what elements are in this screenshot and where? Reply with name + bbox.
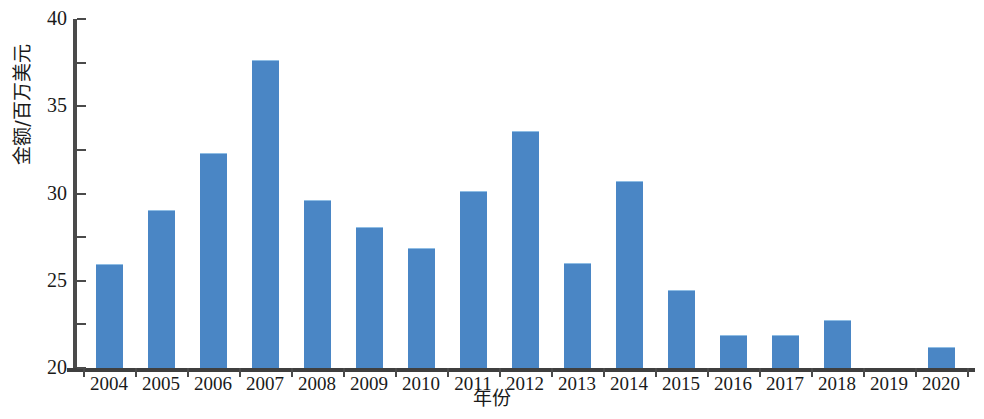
y-axis-tick-label: 25 xyxy=(47,269,67,289)
bar xyxy=(564,263,591,368)
x-axis-tick xyxy=(499,368,501,377)
bar xyxy=(304,200,331,368)
bar xyxy=(252,60,279,368)
x-axis-tick xyxy=(655,368,657,377)
y-axis-tick: 30 xyxy=(77,105,86,107)
y-axis-tick: 20 xyxy=(77,193,86,195)
x-axis-line xyxy=(67,368,975,372)
bar xyxy=(96,264,123,368)
bar xyxy=(356,227,383,368)
x-axis-tick xyxy=(863,368,865,377)
y-axis-tick-label: 30 xyxy=(47,182,67,202)
bar xyxy=(772,335,799,368)
x-axis-tick xyxy=(915,368,917,377)
y-axis-tick-label: 35 xyxy=(47,95,67,115)
bar xyxy=(408,248,435,368)
bar xyxy=(824,320,851,368)
x-axis-tick xyxy=(395,368,397,377)
x-axis-tick xyxy=(83,368,85,377)
y-axis-tick: 10 xyxy=(77,280,86,282)
y-axis-title: 金额/百万美元 xyxy=(13,5,32,205)
x-axis-tick xyxy=(343,368,345,377)
bar-chart: 金额/百万美元 0510152025303540 200420052006200… xyxy=(0,0,984,419)
y-axis-tick: 25 xyxy=(77,149,86,151)
y-axis-tick: 40 xyxy=(77,18,86,20)
x-axis-tick xyxy=(551,368,553,377)
bar xyxy=(616,181,643,368)
plot-area: 0510152025303540 20042005200620072008200… xyxy=(73,19,975,368)
y-axis-tick-label: 20 xyxy=(47,357,67,377)
x-axis-tick xyxy=(967,368,969,377)
bar xyxy=(148,210,175,368)
y-axis-tick: 15 xyxy=(77,236,86,238)
x-axis-tick xyxy=(811,368,813,377)
x-axis-tick xyxy=(447,368,449,377)
x-axis-tick xyxy=(603,368,605,377)
bar xyxy=(460,191,487,368)
bar xyxy=(720,335,747,368)
bar xyxy=(512,131,539,368)
y-axis-tick: 5 xyxy=(77,323,86,325)
x-axis-title: 年份 xyxy=(0,389,984,408)
x-axis-tick xyxy=(239,368,241,377)
bar xyxy=(668,290,695,368)
x-axis-tick xyxy=(759,368,761,377)
bar xyxy=(928,347,955,368)
y-axis-tick-label: 40 xyxy=(47,8,67,28)
x-axis-tick xyxy=(707,368,709,377)
x-axis-tick xyxy=(187,368,189,377)
bar xyxy=(200,153,227,368)
x-axis-tick xyxy=(291,368,293,377)
y-axis-tick: 35 xyxy=(77,62,86,64)
x-axis-tick xyxy=(135,368,137,377)
